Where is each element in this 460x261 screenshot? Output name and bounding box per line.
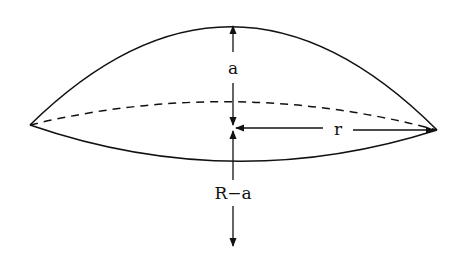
- label-radius: r: [334, 119, 343, 139]
- label-center-offset: R−a: [214, 183, 251, 203]
- spherical-cap-diagram: a r R−a: [0, 0, 460, 261]
- label-cap-height: a: [228, 58, 238, 78]
